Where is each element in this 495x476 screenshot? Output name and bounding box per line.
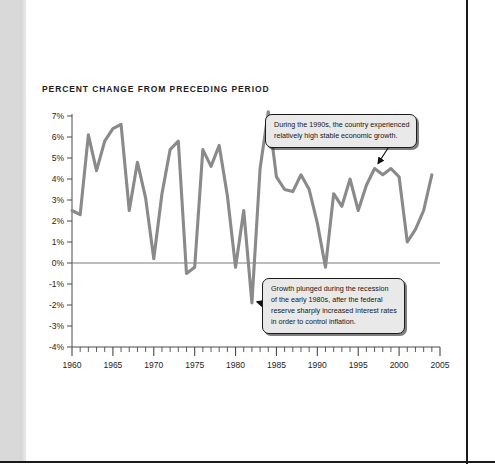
callout-1990s-line-2: relatively high stable economic growth.: [274, 131, 409, 142]
page-gutter-shade: [20, 0, 26, 462]
y-axis-tick-label: 1%: [52, 237, 65, 247]
x-axis-tick-label: 2005: [431, 360, 450, 370]
y-axis-tick-label: 3%: [52, 195, 65, 205]
page-gutter-strip: [0, 0, 26, 462]
x-axis-tick-label: 2000: [390, 360, 409, 370]
callout-recession-line-2: of the early 1980s, after the federal: [271, 295, 397, 306]
y-axis-tick-label: 5%: [52, 153, 65, 163]
y-axis-tick-label: -2%: [49, 300, 65, 310]
x-axis-tick-label: 1965: [103, 360, 122, 370]
page-root: PERCENT CHANGE FROM PRECEDING PERIOD 7%6…: [0, 0, 495, 476]
y-axis-tick-label: 0%: [52, 258, 65, 268]
callout-recession: Growth plunged during the recession of t…: [262, 278, 405, 334]
y-axis-tick-label: -3%: [49, 321, 65, 331]
callout-recession-line-1: Growth plunged during the recession: [271, 284, 397, 295]
callout-recession-line-3: reserve sharply increased interest rates: [271, 306, 397, 317]
x-axis-tick-label: 1990: [308, 360, 327, 370]
y-axis-tick-label: 4%: [52, 174, 65, 184]
x-axis-tick-label: 1975: [185, 360, 204, 370]
y-axis-tick-label: 6%: [52, 132, 65, 142]
y-axis-tick-label: 2%: [52, 216, 65, 226]
y-axis-tick-label: 7%: [52, 111, 65, 121]
x-axis-tick-label: 1995: [349, 360, 368, 370]
figure-title: PERCENT CHANGE FROM PRECEDING PERIOD: [42, 84, 269, 94]
callout-1990s: During the 1990s, the country experience…: [265, 114, 417, 148]
x-axis-tick-label: 1985: [267, 360, 286, 370]
y-axis-tick-label: -4%: [49, 342, 65, 352]
x-axis-tick-label: 1980: [226, 360, 245, 370]
callout-recession-line-4: in order to control inflation.: [271, 317, 397, 328]
page-border-right: [466, 0, 468, 464]
x-axis-tick-label: 1960: [63, 360, 82, 370]
callout-1990s-line-1: During the 1990s, the country experience…: [274, 120, 409, 131]
page-border-bottom: [0, 461, 495, 463]
y-axis-tick-label: -1%: [49, 279, 65, 289]
x-axis-tick-label: 1970: [144, 360, 163, 370]
